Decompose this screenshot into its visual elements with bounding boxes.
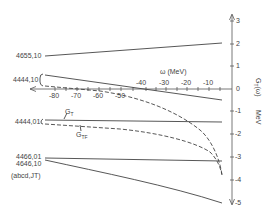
x-tick: -10 (203, 79, 213, 87)
annotation-gt: GT (65, 108, 74, 118)
x-tick: -20 (181, 79, 191, 87)
bracket-4444-10 (40, 74, 43, 86)
y-tick: -2 (235, 130, 241, 138)
y-axis-label: GT(ω) (253, 78, 262, 97)
data-curves (40, 43, 222, 203)
annotation-gtf: GTF (76, 131, 88, 141)
x-tick: -80 (49, 92, 59, 100)
y-tick: -3 (235, 153, 241, 161)
line-4646-10 (45, 160, 222, 203)
label-4444-10: 4444,10 (13, 76, 38, 84)
y-tick: -4 (235, 176, 241, 184)
bracket-4444-01 (41, 119, 43, 124)
label-4655-10: 4655,10 (16, 52, 41, 60)
x-axis-label: ω (MeV) (160, 68, 186, 76)
y-tick: 2 (236, 40, 240, 48)
x-tick: -70 (71, 92, 81, 100)
y-tick: -1 (235, 107, 241, 115)
x-tick: -50 (115, 92, 125, 100)
y-tick: 3 (236, 17, 240, 25)
x-tick: -60 (93, 92, 103, 100)
gtf-subscript: TF (81, 134, 87, 140)
label-4646-10: 4646,10 (16, 160, 41, 168)
caption-abcd-jt: (abcd,JT) (11, 172, 41, 180)
line-4444-01-gt (45, 120, 222, 122)
gt-subscript: T (70, 111, 73, 117)
line-4444-01-gtf (45, 124, 222, 175)
line-4655-10 (45, 43, 222, 56)
y-axis-unit: MeV (255, 110, 262, 124)
label-4444-01: 4444,01 (15, 118, 40, 126)
y-axis (230, 14, 235, 205)
y-tick: 0 (236, 85, 240, 93)
x-tick: -40 (136, 79, 146, 87)
y-tick: -5 (235, 199, 241, 207)
y-label-omega: (ω) (255, 87, 262, 97)
x-tick: -30 (159, 79, 169, 87)
chart-plot (0, 0, 269, 214)
y-tick: 1 (236, 62, 240, 70)
line-4466-01 (45, 158, 222, 161)
